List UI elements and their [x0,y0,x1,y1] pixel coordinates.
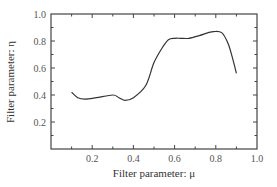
x-axis-label: Filter parameter: μ [113,167,195,179]
plot-frame [51,14,257,149]
series-line [72,31,237,100]
y-tick-label: 0.2 [34,117,47,128]
data-series [72,31,237,100]
y-axis-label: Filter parameter: η [4,41,16,123]
x-axis-ticks: 0.20.40.60.81.0 [72,14,264,164]
y-tick-label: 1.0 [34,9,47,20]
x-tick-label: 0.6 [168,153,181,164]
x-tick-label: 0.4 [127,153,140,164]
x-tick-label: 0.8 [210,153,223,164]
x-tick-label: 0.2 [86,153,99,164]
x-tick-label: 1.0 [251,153,264,164]
y-tick-label: 0.4 [34,90,47,101]
y-tick-label: 0.8 [34,36,47,47]
y-axis-ticks: 0.20.40.60.81.0 [34,9,258,136]
line-chart: 0.20.40.60.81.0 0.20.40.60.81.0 Filter p… [0,0,277,187]
y-tick-label: 0.6 [34,63,47,74]
